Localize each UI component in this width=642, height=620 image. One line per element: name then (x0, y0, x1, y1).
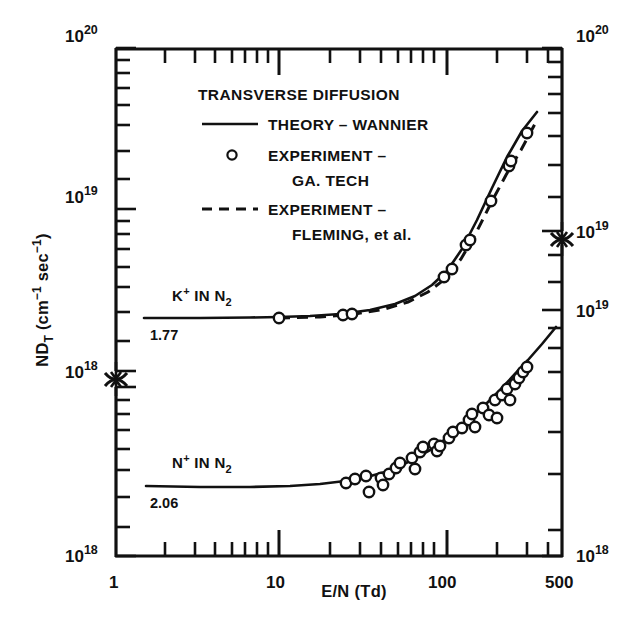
y-title-units-close: ) (33, 233, 51, 239)
y-title-exp1: −1 (30, 286, 44, 300)
x-axis-title: E/N (Td) (321, 582, 387, 600)
x-label-10: 10 (266, 573, 285, 592)
x-label-1: 1 (109, 573, 118, 592)
upper-species-mid: IN N (190, 287, 226, 304)
upper-species-sub: 2 (226, 296, 232, 308)
lower-species-sup: + (183, 452, 190, 464)
data-point (522, 362, 532, 372)
data-point (347, 309, 357, 319)
y-title-units-mid: sec (33, 253, 51, 286)
data-point (505, 395, 515, 405)
data-point (364, 487, 374, 497)
x-label-100: 100 (428, 573, 456, 592)
data-point (467, 409, 477, 419)
figure-root: TRANSVERSE DIFFUSION THEORY – WANNIER EX… (0, 0, 642, 620)
y-title-exp2: −1 (30, 239, 44, 253)
data-point (361, 471, 371, 481)
data-point (506, 156, 516, 166)
y-title-units-open: (cm (33, 300, 51, 335)
annotation-lower-value: 2.06 (150, 495, 178, 511)
upper-species-sup: + (183, 285, 190, 297)
data-point (435, 441, 445, 451)
lower-species-mid: IN N (190, 454, 226, 471)
data-point (492, 413, 502, 423)
y-title-main: ND (33, 342, 51, 366)
data-point (486, 196, 496, 206)
chart-svg: TRANSVERSE DIFFUSION THEORY – WANNIER EX… (0, 0, 642, 620)
annotation-upper-value: 1.77 (150, 327, 178, 343)
legend-label-experiment-fleming-2: FLEMING, et al. (292, 226, 412, 243)
data-point (350, 474, 360, 484)
legend-title: TRANSVERSE DIFFUSION (198, 86, 400, 103)
data-point (447, 264, 457, 274)
data-point (395, 458, 405, 468)
data-point (418, 442, 428, 452)
data-point (522, 128, 532, 138)
legend-label-experiment-gatech: EXPERIMENT – (268, 147, 387, 164)
x-label-500: 500 (545, 573, 573, 592)
data-point (274, 313, 284, 323)
lower-species-main: N (172, 454, 183, 471)
data-point (465, 235, 475, 245)
upper-species-main: K (172, 287, 183, 304)
legend-label-theory: THEORY – WANNIER (268, 116, 429, 133)
legend-label-experiment-gatech-2: GA. TECH (292, 172, 369, 189)
lower-species-sub: 2 (226, 463, 232, 475)
data-point (378, 480, 388, 490)
legend-label-experiment-fleming: EXPERIMENT – (268, 201, 387, 218)
data-point (470, 422, 480, 432)
data-point (410, 464, 420, 474)
